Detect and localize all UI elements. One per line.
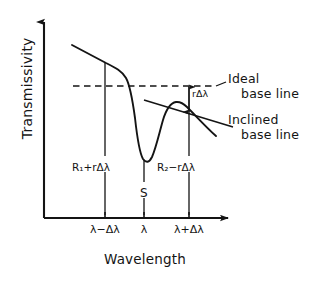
legend-ideal-line2: base line bbox=[228, 87, 299, 102]
legend-ideal-line1: Ideal bbox=[228, 71, 259, 86]
annotation-left-segment: R₁+rΔλ bbox=[72, 161, 110, 173]
x-tick-label-lambda-plus-delta: λ+Δλ bbox=[159, 224, 219, 237]
legend-inclined-line1: Inclined bbox=[228, 112, 279, 127]
ideal-label-leader bbox=[216, 82, 226, 86]
annotation-peak-marker: S bbox=[140, 186, 148, 200]
legend-inclined-line2: base line bbox=[228, 128, 299, 143]
legend-ideal-base-line: Ideal base line bbox=[228, 72, 299, 102]
legend-inclined-base-line: Inclined base line bbox=[228, 113, 299, 143]
spectrum-figure: Transmissivity Wavelength λ−Δλ λ λ+Δλ R₁… bbox=[0, 0, 315, 281]
x-axis-title: Wavelength bbox=[80, 252, 210, 268]
y-axis-title: Transmissivity bbox=[19, 23, 36, 153]
annotation-right-segment: R₂−rΔλ bbox=[157, 161, 195, 173]
annotation-gap-measure: rΔλ bbox=[192, 88, 208, 99]
spectrum-curve bbox=[72, 45, 216, 162]
